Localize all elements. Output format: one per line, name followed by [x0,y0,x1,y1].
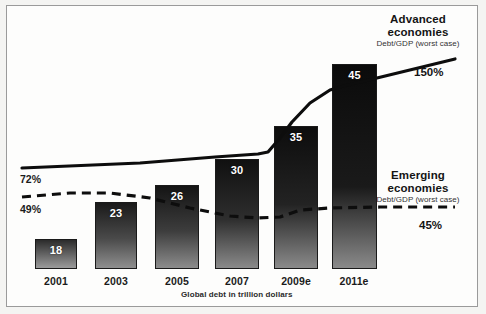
emerging-economies-end-pct: 45% [419,219,442,231]
emerging-start-pct: 49% [20,203,41,215]
emerging-economies-sublabel: Debt/GDP (worst case) [355,195,481,205]
advanced-economies-end-pct: 150% [414,66,443,78]
xtick-2011e: 2011e [327,275,381,287]
advanced-economies-title-line1: Advanced [355,13,481,26]
xtick-2005: 2005 [151,275,203,287]
advanced-economies-sublabel: Debt/GDP (worst case) [355,39,481,49]
advanced-economies-line [22,59,455,168]
advanced-economies-title-line2: economies [355,26,481,39]
chart-screenshot: 18 23 26 30 35 45 2001 2003 2005 2007 20… [0,0,486,314]
advanced-economies-annotation: Advanced economies Debt/GDP (worst case) [355,13,481,49]
xtick-2009e: 2009e [269,275,323,287]
emerging-economies-title-line1: Emerging [355,169,481,182]
emerging-economies-title-line2: economies [355,182,481,195]
advanced-start-pct: 72% [20,173,41,185]
emerging-economies-annotation: Emerging economies Debt/GDP (worst case) [355,169,481,205]
axis-note: Global debt in trillion dollars [181,290,293,299]
xtick-2007: 2007 [211,275,263,287]
xtick-2003: 2003 [90,275,142,287]
xtick-2001: 2001 [30,275,82,287]
